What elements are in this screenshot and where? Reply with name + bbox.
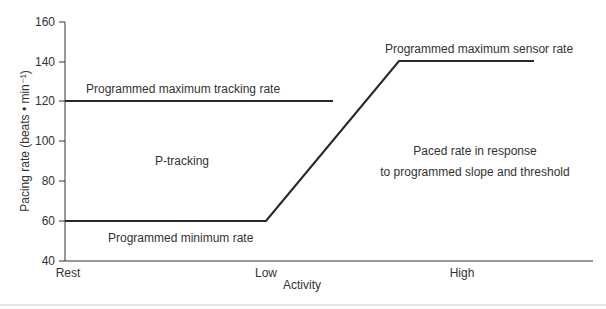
y-tick-label: 100 [35, 134, 55, 148]
x-tick-label: High [450, 266, 475, 280]
y-axis [59, 22, 65, 261]
y-axis-label: Pacing rate (beats • min⁻¹) [18, 70, 32, 212]
annotation-max-sensor: Programmed maximum sensor rate [385, 42, 573, 56]
annotation-p-tracking: P-tracking [155, 154, 209, 168]
annotation-paced-rate-1: Paced rate in response [413, 144, 537, 158]
y-tick-label: 120 [35, 94, 55, 108]
y-tick-label: 140 [35, 55, 55, 69]
x-tick-label: Rest [56, 266, 81, 280]
x-tick-label: Low [255, 266, 277, 280]
annotation-max-tracking: Programmed maximum tracking rate [86, 82, 280, 96]
y-tick-label: 160 [35, 15, 55, 29]
chart: 160 140 120 100 80 60 40 Pacing rate (be… [0, 0, 606, 309]
annotation-paced-rate-2: to programmed slope and threshold [380, 165, 569, 179]
y-tick-label: 60 [42, 214, 56, 228]
y-tick-label: 40 [42, 254, 56, 268]
x-axis-label: Activity [283, 278, 321, 292]
y-tick-label: 80 [42, 174, 56, 188]
annotation-min-rate: Programmed minimum rate [108, 231, 254, 245]
